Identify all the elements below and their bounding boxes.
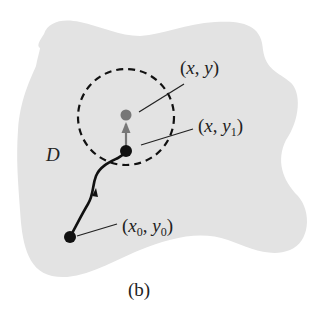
point-target <box>121 110 132 121</box>
diagram-svg: (x, y) (x, y1) (x0, y0) D (b) <box>0 0 323 309</box>
point-intermediate <box>120 145 132 157</box>
label-target: (x, y) <box>180 57 219 79</box>
region-label: D <box>45 144 60 165</box>
figure-caption: (b) <box>128 279 150 301</box>
label-intermediate: (x, y1) <box>198 115 243 139</box>
figure-canvas: (x, y) (x, y1) (x0, y0) D (b) <box>0 0 323 309</box>
point-start <box>64 231 76 243</box>
